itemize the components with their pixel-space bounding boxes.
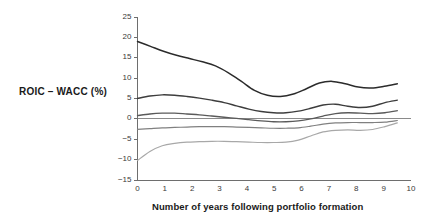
chart-container: ROIC – WACC (%) Number of years followin… xyxy=(0,0,432,224)
axis-lines xyxy=(134,17,411,180)
plot-area xyxy=(0,0,432,224)
series-line-1 xyxy=(138,41,398,96)
series-line-2 xyxy=(138,95,398,113)
series-lines xyxy=(138,41,398,160)
